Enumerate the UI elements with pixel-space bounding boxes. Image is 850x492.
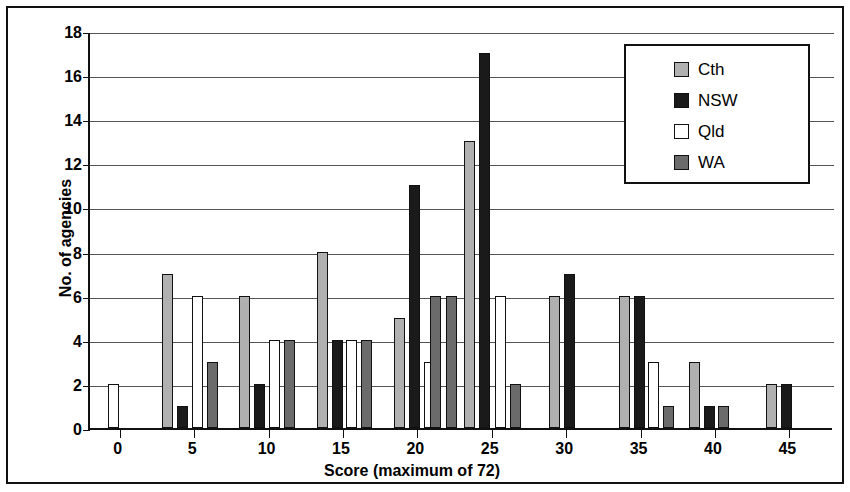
y-tick-label: 12 (48, 157, 82, 173)
x-tick-mark (715, 430, 716, 438)
bar-cth (619, 296, 630, 428)
legend-item-qld: Qld (626, 116, 808, 147)
bar-wa (446, 296, 457, 428)
y-tick-label: 6 (48, 290, 82, 306)
y-tick-mark (83, 121, 90, 122)
x-tick-mark (120, 430, 121, 438)
bar-qld (269, 340, 280, 428)
bar-qld (108, 384, 119, 428)
gridline (90, 209, 834, 210)
bar-qld (346, 340, 357, 428)
bar-qld (192, 296, 203, 428)
bar-nsw (254, 384, 265, 428)
x-tick-label: 30 (544, 440, 584, 458)
y-tick-label: 4 (48, 334, 82, 350)
bar-nsw (564, 274, 575, 428)
x-tick-mark (194, 430, 195, 438)
x-tick-mark (417, 430, 418, 438)
legend-swatch-qld-icon (674, 124, 689, 139)
bar-wa (430, 296, 441, 428)
legend-swatch-wa-icon (674, 155, 689, 170)
x-tick-mark (566, 430, 567, 438)
bar-qld (495, 296, 506, 428)
y-axis-labels: No. of agencies 024681012141618 (38, 33, 82, 430)
legend-swatch-cth-icon (674, 62, 689, 77)
x-tick-mark (269, 430, 270, 438)
bar-cth (464, 141, 475, 428)
x-tick-mark (343, 430, 344, 438)
bar-wa (361, 340, 372, 428)
legend-label-qld: Qld (698, 123, 724, 140)
x-tick-label: 25 (470, 440, 510, 458)
bar-nsw (409, 185, 420, 428)
x-tick-mark (789, 430, 790, 438)
y-axis-title: No. of agencies (57, 118, 75, 358)
bar-nsw (332, 340, 343, 428)
x-tick-label: 35 (619, 440, 659, 458)
bar-wa (284, 340, 295, 428)
y-tick-label: 8 (48, 246, 82, 262)
y-tick-mark (83, 77, 90, 78)
bar-wa (718, 406, 729, 428)
x-tick-mark (492, 430, 493, 438)
gridline (90, 33, 834, 34)
bar-nsw (781, 384, 792, 428)
legend-swatch-nsw-icon (674, 93, 689, 108)
bar-cth (317, 252, 328, 428)
y-tick-label: 10 (48, 201, 82, 217)
x-tick-label: 45 (767, 440, 807, 458)
gridline (90, 254, 834, 255)
bar-nsw (177, 406, 188, 428)
y-tick-mark (83, 165, 90, 166)
bar-nsw (704, 406, 715, 428)
legend-label-wa: WA (698, 154, 725, 171)
legend-label-nsw: NSW (698, 92, 738, 109)
bar-cth (239, 296, 250, 428)
bar-cth (689, 362, 700, 428)
y-tick-mark (83, 298, 90, 299)
figure-container: No. of agencies 024681012141618 Score (m… (0, 0, 850, 492)
bar-nsw (479, 53, 490, 428)
bar-cth (766, 384, 777, 428)
legend-item-wa: WA (626, 147, 808, 178)
y-tick-label: 16 (48, 69, 82, 85)
bar-cth (394, 318, 405, 428)
x-tick-label: 5 (172, 440, 212, 458)
bar-wa (663, 406, 674, 428)
legend-item-nsw: NSW (626, 85, 808, 116)
y-tick-label: 14 (48, 113, 82, 129)
y-tick-label: 0 (48, 422, 82, 438)
y-tick-mark (83, 342, 90, 343)
legend-item-cth: Cth (626, 54, 808, 85)
bar-nsw (634, 296, 645, 428)
x-tick-label: 40 (693, 440, 733, 458)
y-tick-mark (83, 33, 90, 34)
y-tick-label: 2 (48, 378, 82, 394)
bar-cth (549, 296, 560, 428)
x-tick-label: 0 (98, 440, 138, 458)
x-tick-label: 15 (321, 440, 361, 458)
bar-cth (162, 274, 173, 428)
y-tick-label: 18 (48, 25, 82, 41)
bar-wa (207, 362, 218, 428)
bar-wa (510, 384, 521, 428)
y-tick-mark (83, 386, 90, 387)
y-tick-mark (83, 209, 90, 210)
x-tick-label: 20 (395, 440, 435, 458)
x-tick-label: 10 (247, 440, 287, 458)
legend-label-cth: Cth (698, 61, 724, 78)
bar-qld (648, 362, 659, 428)
y-tick-mark (83, 430, 90, 431)
x-axis-title: Score (maximum of 72) (88, 462, 736, 480)
x-tick-mark (641, 430, 642, 438)
y-tick-mark (83, 254, 90, 255)
chart-legend: Cth NSW Qld WA (624, 44, 810, 184)
